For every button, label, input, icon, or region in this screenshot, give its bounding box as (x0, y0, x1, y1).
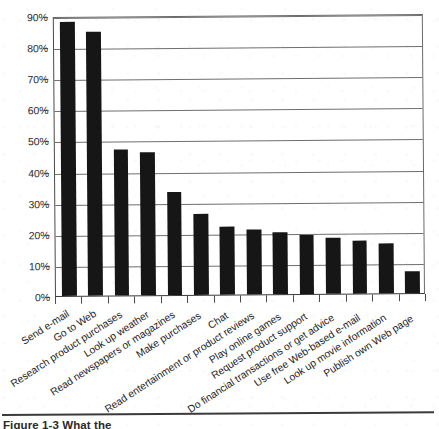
gridline (55, 108, 423, 112)
bar (246, 229, 261, 294)
y-axis-tick-label: 50% (7, 136, 49, 147)
gridline (55, 171, 423, 175)
bar (299, 235, 314, 294)
bar (220, 226, 235, 295)
bar (352, 241, 367, 294)
bar (86, 31, 103, 296)
y-axis-tick-label: 70% (6, 74, 48, 85)
y-axis-tick-label: 10% (8, 261, 50, 272)
y-axis-tick-label: 90% (6, 12, 48, 23)
y-axis-tick-label: 40% (7, 168, 49, 179)
y-axis-tick-mark (45, 266, 50, 267)
y-axis-tick-mark (44, 110, 49, 111)
figure-caption: Figure 1-3 What the (3, 419, 433, 429)
bar (60, 22, 77, 296)
bar (326, 238, 341, 294)
y-axis-tick-mark (45, 235, 50, 236)
gridline (54, 15, 422, 19)
y-axis-tick-mark (44, 204, 49, 205)
gridline (56, 264, 424, 268)
gridline (56, 233, 424, 237)
bar (405, 271, 420, 293)
gridline (55, 202, 423, 206)
y-axis-tick-mark (43, 48, 48, 49)
gridline (54, 77, 422, 81)
bar (273, 232, 288, 294)
y-axis-tick-label: 20% (7, 230, 49, 241)
bar (193, 214, 208, 295)
x-axis-labels: Send e-mailGo to WebResearch product pur… (0, 297, 439, 417)
y-axis-tick-label: 60% (6, 105, 48, 116)
bar (113, 149, 129, 295)
y-axis-tick-mark (43, 79, 48, 80)
bar (167, 192, 183, 295)
gridline (54, 46, 422, 50)
bar (379, 244, 394, 294)
y-axis-tick-mark (44, 141, 49, 142)
bar (140, 152, 156, 295)
y-axis-tick-label: 30% (7, 199, 49, 210)
y-axis-tick-mark (43, 17, 48, 18)
plot-area (53, 14, 425, 297)
y-axis-tick-mark (44, 173, 49, 174)
figure-container: 90%80%70%60%50%40%30%20%10%0% Send e-mai… (0, 0, 439, 429)
gridline (55, 140, 423, 144)
y-axis-tick-label: 80% (6, 43, 48, 54)
